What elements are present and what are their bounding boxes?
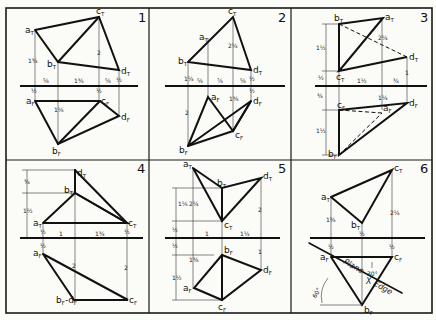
dimension-label: ½	[359, 230, 365, 237]
dimension-label: ½	[31, 87, 37, 94]
dimension-label: ½	[40, 242, 46, 249]
dimension-label: 2¼	[378, 34, 388, 41]
dimension-label: ½	[249, 87, 255, 94]
point-label-dT: dT	[121, 66, 131, 77]
point-label-cT: cT	[336, 72, 345, 83]
dimension-label: 1⅛	[54, 106, 64, 113]
front-view-outline	[194, 255, 261, 300]
angle-label-60: 60°	[311, 286, 322, 299]
dimension-label: ½	[96, 87, 102, 94]
dimension-label: ¾	[317, 92, 323, 99]
point-label-dF: dF	[263, 265, 272, 276]
dimension-label: 1	[258, 248, 262, 255]
panel-3: 3 bT aT dT cT cF aF dF bF 1½ ½ 2¼ 1 1½ ¾…	[315, 10, 428, 160]
dimension-label: 1⅜	[326, 216, 336, 223]
point-label-bF: bF	[52, 146, 61, 157]
panel-number: 4	[137, 161, 145, 176]
dimension-label: 1¼	[240, 230, 250, 237]
dimension-label: ⅝	[105, 77, 111, 84]
point-label-cT: cT	[224, 220, 233, 231]
dimension-label: ½	[172, 242, 178, 249]
dimension-label: 1½	[357, 77, 367, 84]
panel-6: 6 aT cT bT aF cF bF 1⅜ 2¼ ½ ½ ½ 30° 60° …	[309, 161, 428, 316]
dimension-label: 2¼	[228, 42, 238, 49]
point-label-cF: cF	[101, 96, 109, 107]
point-label-dT: dT	[263, 171, 273, 182]
front-view-outline	[331, 257, 392, 305]
angle-arc-60	[321, 278, 328, 303]
point-label-bT: bT	[178, 56, 188, 67]
dimension-label: ½	[124, 228, 130, 235]
point-label-cT: cT	[394, 163, 403, 174]
dimension-label: ¾	[24, 178, 30, 185]
dimension-label: 1⅜	[229, 95, 239, 102]
point-label-cF: cF	[337, 100, 345, 111]
top-view-outline	[339, 18, 407, 71]
top-view-outline	[43, 193, 127, 223]
point-label-bF: bF	[224, 245, 233, 256]
point-label-cF: cF	[218, 302, 226, 313]
dimension-label: 1	[405, 69, 409, 76]
top-view-outline	[193, 168, 261, 221]
dimension-label: ¾	[393, 77, 399, 84]
panel-number: 2	[278, 10, 286, 25]
panel-5: 5 aT bT dT cT bF dF aF cF 1⅛ 2¼ ½ 1 1¼ 2…	[165, 159, 286, 313]
point-label-aF: aF	[183, 283, 192, 294]
panel-number: 1	[138, 10, 146, 25]
dimension-label: 1¾	[95, 230, 105, 237]
point-label-bT: bT	[334, 13, 344, 24]
dimension-label: 2	[97, 49, 101, 56]
dimension-label: 1¾	[28, 57, 38, 64]
top-view-outline	[188, 17, 251, 70]
top-view-outline	[331, 170, 392, 223]
point-label-dF: dF	[121, 112, 130, 123]
point-label-bF: bF	[179, 145, 188, 156]
dimension-label: 1⅛	[178, 200, 188, 207]
point-label-dT: dT	[409, 52, 419, 63]
point-label-aT: aT	[183, 159, 193, 170]
point-label-aF: aF	[26, 96, 35, 107]
point-label-aF: aF	[33, 248, 42, 259]
point-label-aT: aT	[199, 32, 209, 43]
point-label-cF: cF	[235, 130, 243, 141]
angle-label-30: 30°	[367, 270, 378, 277]
dimension-label: 2	[258, 206, 262, 213]
dimension-label: 1½	[316, 44, 326, 51]
dimension-label: 2¼	[189, 200, 199, 207]
panel-number: 6	[420, 161, 428, 176]
dimension-label: 2¼	[390, 209, 400, 216]
point-label-bT: bT	[217, 178, 227, 189]
dimension-label: 2	[124, 264, 128, 271]
dimension-label: ⅝	[197, 77, 203, 84]
dimension-label: ½	[249, 75, 255, 82]
point-label-bF-dF: bF-dF	[56, 295, 77, 306]
dimension-label: ½	[116, 76, 122, 83]
dimension-label: 1¼	[378, 94, 388, 101]
point-label-aT: aT	[321, 192, 331, 203]
panel-number: 3	[420, 10, 428, 25]
point-label-aF: aF	[211, 92, 220, 103]
drawing-sheet: 1 aT cT bT dT aF cF dF bF 1¾ ⅝ 1⅜ ⅝ 2 ½ …	[0, 0, 436, 320]
panel-2: 2 cT aT bT dT aF dF cF bF 2¼ 1¼ ⅝ ⅞ ⅝ ½ …	[165, 6, 286, 156]
dimension-label: ½	[389, 243, 395, 250]
panel-4: 4 dT bT aT cT aF bF-dF cF ¾ 1½ 1 1¾ ½ ½ …	[20, 161, 145, 306]
dimension-label: ½	[318, 74, 324, 81]
dimension-label: 1¼	[184, 75, 194, 82]
point-label-cF: cF	[129, 295, 137, 306]
dimension-label: 1⅜	[189, 256, 199, 263]
front-view-outline	[43, 254, 128, 300]
dimension-label: 1⅜	[74, 77, 84, 84]
edge-label: Edge	[372, 279, 394, 297]
panel-number: 5	[278, 161, 286, 176]
dimension-label: 2	[185, 109, 189, 116]
dimension-label: 1	[205, 230, 209, 237]
point-label-bF: bF	[364, 305, 373, 316]
point-label-bF: bF	[328, 149, 337, 160]
dimension-label: 1½	[23, 207, 33, 214]
dimension-label: ½	[172, 226, 178, 233]
dimension-label: 1	[59, 230, 63, 237]
dimension-label: ½	[40, 228, 46, 235]
point-label-dT: dT	[77, 168, 87, 179]
point-label-cF: cF	[394, 252, 402, 263]
point-label-aT: aT	[25, 25, 35, 36]
